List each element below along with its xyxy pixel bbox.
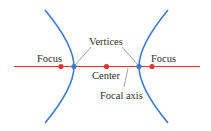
vertices-leader-left: [75, 47, 91, 65]
focal-axis-label: Focal axis: [100, 90, 143, 101]
vertices-label: Vertices: [89, 36, 123, 47]
right-focus-point: [149, 64, 154, 69]
focus-left-label: Focus: [37, 53, 62, 64]
hyperbola-diagram: Focus Focus Vertices Center Focal axis: [0, 0, 211, 131]
focal-axis-leader: [124, 68, 128, 87]
right-vertex-point: [136, 64, 141, 69]
center-point: [104, 64, 109, 69]
center-label: Center: [92, 70, 120, 81]
focus-right-label: Focus: [151, 53, 176, 64]
left-vertex-point: [71, 64, 76, 69]
vertices-leader-right: [122, 47, 138, 65]
left-focus-point: [58, 64, 63, 69]
